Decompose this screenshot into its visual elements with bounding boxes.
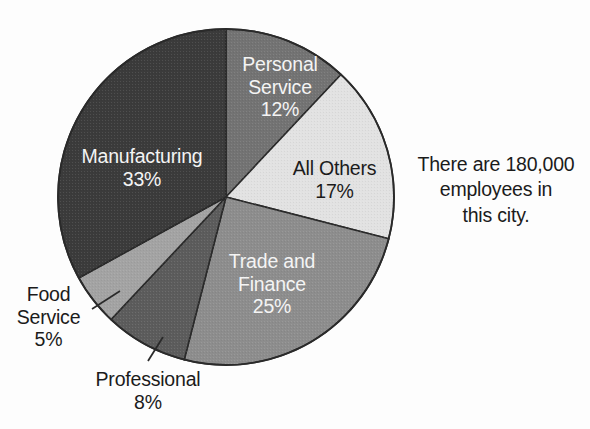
employees-note: There are 180,000 employees in this city… [408, 152, 584, 228]
pie-chart-figure: Manufacturing 33% Personal Service 12% A… [0, 0, 590, 429]
pie-texture-overlay [58, 29, 394, 365]
employees-note-line1: There are 180,000 [408, 152, 584, 177]
employees-note-line3: this city. [408, 203, 584, 228]
employees-note-line2: employees in [408, 177, 584, 202]
